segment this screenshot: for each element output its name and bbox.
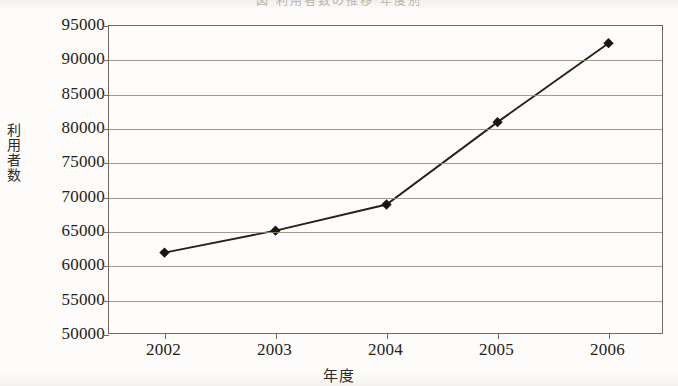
y-axis-tick — [103, 301, 109, 302]
y-axis-tick-labels: 5000055000600006500070000750008000085000… — [27, 0, 105, 386]
y-axis-tick — [103, 198, 109, 199]
y-axis-tick-label: 80000 — [31, 118, 105, 138]
y-axis-tick — [103, 335, 109, 336]
y-axis-tick-label: 55000 — [31, 290, 105, 310]
series-layer — [109, 26, 664, 335]
y-axis-tick — [103, 163, 109, 164]
y-axis-tick — [103, 129, 109, 130]
y-axis-tick-label: 90000 — [31, 49, 105, 69]
y-axis-tick — [103, 60, 109, 61]
y-axis-tick-label: 75000 — [31, 152, 105, 172]
y-axis-title-char-4: 数 — [3, 168, 25, 183]
y-axis-title-char-2: 用 — [3, 138, 25, 153]
gridline-y — [109, 129, 662, 130]
x-axis-tick — [276, 333, 277, 339]
y-axis-tick-label: 65000 — [31, 221, 105, 241]
gridline-y — [109, 95, 662, 96]
x-axis-title: 年度 — [0, 364, 678, 385]
gridline-y — [109, 163, 662, 164]
x-axis-tick-label: 2003 — [257, 340, 292, 360]
plot-area — [108, 25, 663, 334]
y-axis-tick — [103, 232, 109, 233]
y-axis-title: 利 用 者 数 — [3, 123, 25, 183]
x-axis-tick-label: 2005 — [479, 340, 514, 360]
y-axis-tick — [103, 26, 109, 27]
x-axis-tick-label: 2002 — [146, 340, 181, 360]
x-axis-tick — [498, 333, 499, 339]
gridline-y — [109, 232, 662, 233]
x-axis-tick — [609, 333, 610, 339]
gridline-y — [109, 266, 662, 267]
series-line — [165, 43, 609, 252]
gridline-y — [109, 301, 662, 302]
y-axis-tick — [103, 266, 109, 267]
gridline-y — [109, 198, 662, 199]
x-axis-tick — [387, 333, 388, 339]
y-axis-title-char-3: 者 — [3, 153, 25, 168]
y-axis-tick-label: 60000 — [31, 255, 105, 275]
y-axis-title-char-1: 利 — [3, 123, 25, 138]
data-point-marker — [270, 225, 280, 235]
y-axis-tick-label: 70000 — [31, 187, 105, 207]
line-series-svg — [109, 26, 664, 335]
x-axis-tick-label: 2006 — [590, 340, 625, 360]
gridline-y — [109, 60, 662, 61]
y-axis-tick-label: 95000 — [31, 15, 105, 35]
y-axis-tick — [103, 95, 109, 96]
x-axis-tick-label: 2004 — [368, 340, 403, 360]
y-axis-tick-label: 85000 — [31, 84, 105, 104]
x-axis-tick — [165, 333, 166, 339]
data-point-marker — [159, 247, 169, 257]
y-axis-tick-label: 50000 — [31, 324, 105, 344]
